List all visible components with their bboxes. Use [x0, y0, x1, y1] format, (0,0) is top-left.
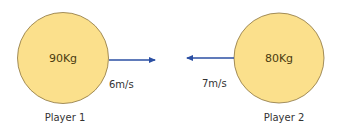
player-1-velocity: 6m/s	[109, 79, 134, 90]
player-2-mass: 80Kg	[265, 52, 293, 65]
player-2-velocity: 7m/s	[202, 78, 227, 89]
collision-diagram: 90Kg 80Kg 6m/s 7m/s Player 1 Player 2	[0, 0, 337, 131]
player-2-label: Player 2	[264, 112, 305, 123]
player-1-label: Player 1	[45, 112, 86, 123]
player-1-mass: 90Kg	[49, 52, 77, 65]
